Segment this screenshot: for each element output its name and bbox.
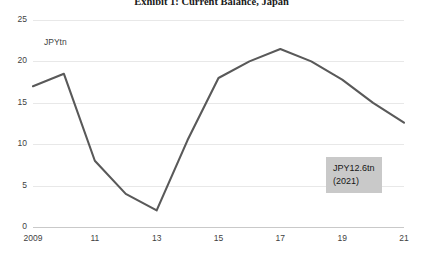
y-axis-tick-label: 5 — [0, 181, 27, 190]
y-axis-tick-label: 15 — [0, 98, 27, 107]
x-axis-tick-label: 2009 — [24, 233, 43, 243]
x-axis-tick-label: 15 — [214, 233, 223, 243]
y-axis-tick-label: 10 — [0, 139, 27, 148]
x-axis-tick-label: 13 — [152, 233, 161, 243]
y-axis-tick-label: 20 — [0, 56, 27, 65]
chart-title: Exhibit 1: Current Balance, Japan — [0, 0, 423, 8]
callout-line-2: (2021) — [333, 175, 375, 188]
y-axis-tick-label: 0 — [0, 222, 27, 231]
series-line-current-balance — [33, 20, 404, 227]
x-axis-tick-label: 21 — [399, 233, 408, 243]
x-axis-tick-label: 11 — [90, 233, 99, 243]
callout-line-1: JPY12.6tn — [333, 162, 375, 175]
x-axis-tick-label: 17 — [276, 233, 285, 243]
x-axis-baseline — [33, 227, 404, 228]
chart-container: Exhibit 1: Current Balance, Japan JPYtn … — [0, 0, 423, 254]
y-axis-tick-label: 25 — [0, 15, 27, 24]
x-axis-tick-label: 19 — [337, 233, 346, 243]
latest-value-callout: JPY12.6tn (2021) — [326, 157, 382, 193]
